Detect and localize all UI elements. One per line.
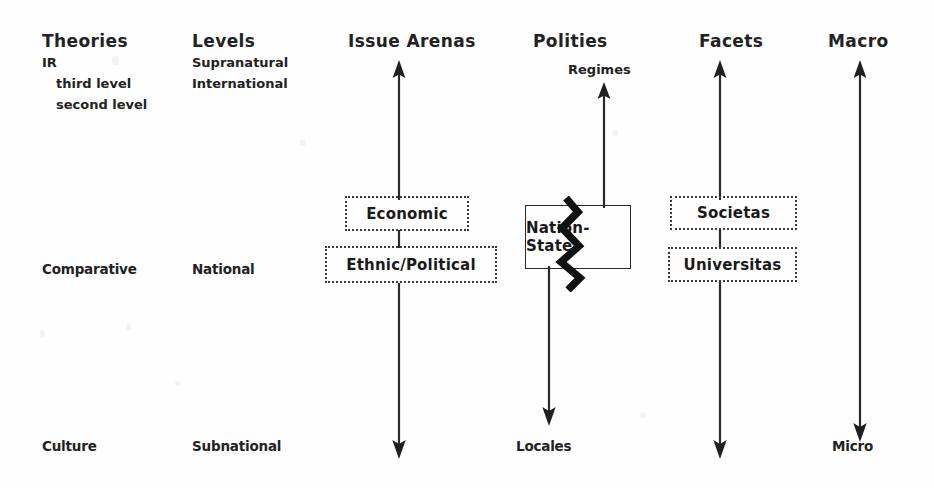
box-societas-label: Societas <box>697 204 770 222</box>
issue-arenas-down-arrow <box>386 283 412 459</box>
box-nation-state-label: Nation-State <box>526 219 630 255</box>
column-header-polities: Polities <box>533 31 608 51</box>
box-universitas: Universitas <box>668 247 797 282</box>
scan-speckle <box>175 381 180 386</box>
scan-speckle <box>40 330 45 337</box>
theories-item-ir: IR <box>42 55 57 70</box>
scan-speckle <box>640 412 646 418</box>
macro-micro-double-arrow <box>847 60 873 442</box>
levels-item-subnational: Subnational <box>192 438 281 454</box>
facets-down-arrow <box>707 282 733 459</box>
box-ethnic-political-label: Ethnic/Political <box>346 256 476 274</box>
polities-top-label-regimes: Regimes <box>568 62 631 77</box>
scale-bottom-label-micro: Micro <box>832 438 873 454</box>
column-header-macro: Macro <box>828 31 889 51</box>
theories-item-second-level: second level <box>56 97 147 112</box>
polities-bottom-label-locales: Locales <box>516 438 571 454</box>
facets-up-arrow <box>707 60 733 200</box>
scan-speckle <box>126 324 131 330</box>
levels-item-international: International <box>192 76 288 91</box>
box-economic-label: Economic <box>366 205 448 223</box>
theories-item-third-level: third level <box>56 76 131 91</box>
box-economic: Economic <box>345 196 469 231</box>
levels-item-national: National <box>192 261 255 277</box>
column-header-facets: Facets <box>699 31 763 51</box>
issue-arenas-up-arrow <box>386 60 412 200</box>
box-ethnic-political: Ethnic/Political <box>325 246 497 283</box>
column-header-levels: Levels <box>192 31 255 51</box>
polities-down-arrow <box>536 266 562 426</box>
scan-speckle <box>300 140 306 146</box>
diagram-canvas: Theories IR third level second level Com… <box>0 0 934 488</box>
column-header-theories: Theories <box>42 31 128 51</box>
box-societas: Societas <box>670 196 797 230</box>
scan-speckle <box>112 56 119 65</box>
theories-item-culture: Culture <box>42 438 97 454</box>
theories-item-comparative: Comparative <box>42 261 137 277</box>
box-universitas-label: Universitas <box>684 256 782 274</box>
box-nation-state: Nation-State <box>525 205 631 269</box>
facets-box-connector <box>713 230 727 248</box>
levels-item-supranatural: Supranatural <box>192 55 288 70</box>
column-header-issue-arenas: Issue Arenas <box>348 31 476 51</box>
polities-up-arrow <box>591 82 617 208</box>
